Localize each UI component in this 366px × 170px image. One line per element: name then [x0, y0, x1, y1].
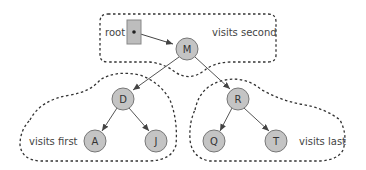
label-visits-last: visits last — [299, 136, 346, 147]
node-Q: Q — [203, 130, 225, 152]
svg-text:D: D — [119, 94, 127, 105]
svg-text:A: A — [92, 136, 99, 147]
svg-text:T: T — [272, 136, 280, 147]
node-M: M — [176, 38, 198, 60]
label-visits-first: visits first — [29, 136, 78, 147]
svg-text:Q: Q — [210, 136, 218, 147]
label-visits-second: visits second — [212, 27, 277, 38]
node-R: R — [227, 88, 249, 110]
node-A: A — [84, 130, 106, 152]
tree-traversal-diagram: M D R A J Q T root visits second visits … — [0, 0, 366, 170]
node-T: T — [265, 130, 287, 152]
node-J: J — [145, 130, 167, 152]
diagram-canvas: M D R A J Q T root visits second visits … — [0, 0, 366, 170]
node-D: D — [112, 88, 134, 110]
svg-text:M: M — [183, 44, 192, 55]
svg-text:J: J — [154, 136, 158, 147]
label-root: root — [105, 27, 125, 38]
svg-text:R: R — [235, 94, 242, 105]
